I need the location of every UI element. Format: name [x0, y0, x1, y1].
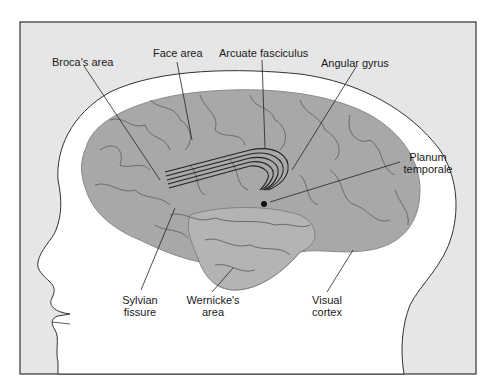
label-planum-temporale: Planum temporale — [403, 151, 453, 175]
label-brocas-area: Broca's area — [52, 56, 113, 68]
label-angular-gyrus: Angular gyrus — [321, 57, 389, 69]
label-sylvian-fissure: Sylvian fissure — [115, 294, 165, 318]
label-wernickes-area: Wernicke's area — [183, 294, 243, 318]
wernicke-marker — [261, 201, 267, 207]
label-face-area: Face area — [153, 47, 203, 59]
label-visual-cortex: Visual cortex — [307, 294, 347, 318]
label-arcuate-fasciculus: Arcuate fasciculus — [219, 47, 308, 59]
